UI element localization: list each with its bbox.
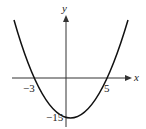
- root-left-label: −3: [23, 82, 35, 94]
- parabola-graph: y x −3 5 −15: [0, 0, 146, 129]
- parabola-curve: [14, 20, 128, 118]
- y-intercept-label: −15: [46, 111, 64, 123]
- y-axis-label: y: [61, 2, 67, 14]
- root-right-label: 5: [104, 82, 110, 94]
- x-axis-arrow-icon: [125, 75, 132, 81]
- y-axis-arrow-icon: [63, 15, 69, 22]
- x-axis-label: x: [133, 71, 139, 83]
